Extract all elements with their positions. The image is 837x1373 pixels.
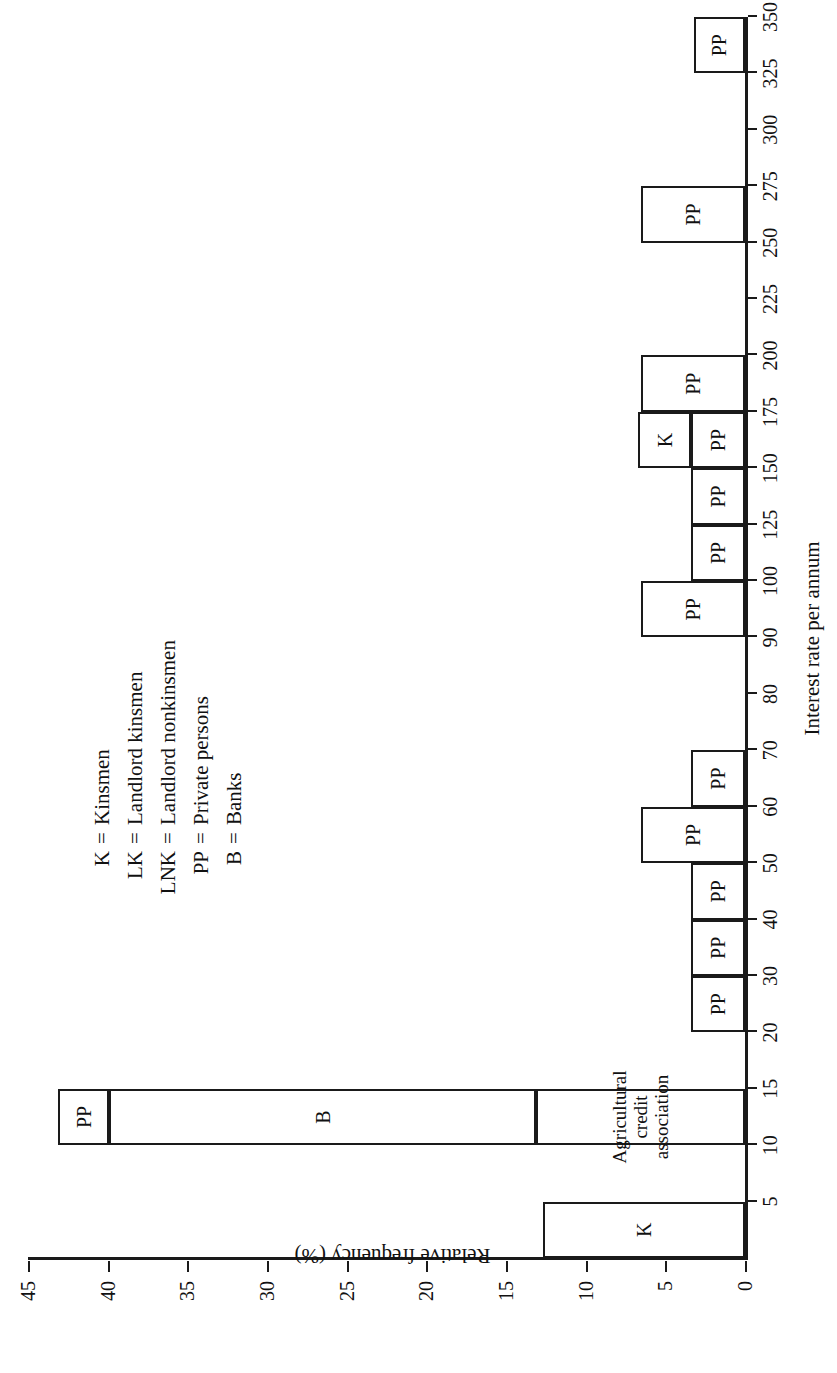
x-axis-title: Interest rate per annum [800,17,825,1260]
x-axis-tick [748,1143,757,1145]
histogram-bar-segment: B [109,1089,536,1145]
y-axis-tick-label: 35 [177,1281,197,1333]
histogram-bar-segment: PP [58,1089,109,1145]
histogram-bar: Agriculturalcredit associationBPP [58,1089,745,1145]
histogram-bar: PP [691,920,745,976]
x-axis-tick-label: 80 [760,671,780,717]
y-axis-tick-label: 30 [257,1281,277,1333]
histogram-bar: PP [691,863,745,919]
histogram-bar: PP [691,976,745,1032]
x-axis-tick-label: 250 [760,220,780,266]
x-axis-tick-label: 125 [760,502,780,548]
y-axis-tick-label: 10 [576,1281,596,1333]
y-axis-tick-label: 25 [337,1281,357,1333]
x-axis-tick-label: 300 [760,107,780,153]
x-axis-tick-label: 60 [760,784,780,830]
x-axis-tick [748,692,757,694]
legend-equals-sign: = [119,825,152,851]
x-axis-tick [748,297,757,299]
x-axis-tick-label: 350 [760,0,780,40]
histogram-bar-segment: PP [694,17,745,73]
bar-segment-label: PP [707,993,729,1015]
histogram-bar-segment: PP [641,355,745,411]
legend-key: PP [185,851,218,903]
x-axis-tick [748,184,757,186]
histogram-bar: PP [694,17,745,73]
y-axis-title: Relative frequency (%) [163,1243,623,1268]
histogram-bar-segment: PP [691,750,745,806]
legend-key: K [86,851,119,903]
histogram-bar: PP [691,468,745,524]
legend-key: B [218,851,251,903]
x-axis-tick [748,579,757,581]
x-axis-tick-label: 275 [760,163,780,209]
legend: K=KinsmenLK=Landlord kinsmenLNK=Landlord… [86,640,251,903]
legend-item: PP=Private persons [185,640,218,903]
y-axis-tick-label: 45 [18,1281,38,1333]
bar-segment-label: PP [707,485,729,507]
histogram-bar: PP [641,186,745,242]
x-axis-tick-label: 100 [760,558,780,604]
histogram-bar-segment: Agriculturalcredit association [536,1089,745,1145]
x-axis-tick [748,410,757,412]
y-axis-tick [28,1261,30,1272]
y-axis-tick-label: 0 [735,1281,755,1333]
x-axis-tick [748,748,757,750]
histogram-bar-segment: PP [691,976,745,1032]
x-axis-tick [748,636,757,638]
legend-key: LNK [152,851,185,903]
x-axis-tick [748,466,757,468]
legend-description: Private persons [185,696,218,825]
x-axis-tick-label: 325 [760,50,780,96]
legend-item: LNK=Landlord nonkinsmen [152,640,185,903]
legend-item: LK=Landlord kinsmen [119,640,152,903]
histogram-bar-segment: PP [641,807,745,863]
x-axis-tick [748,15,757,17]
histogram-bar-segment: PP [691,412,745,468]
histogram-bar: PPK [638,412,745,468]
y-axis-tick [665,1261,667,1272]
x-axis-tick [748,1200,757,1202]
y-axis-tick [108,1261,110,1272]
bar-segment-label: PP [707,767,729,789]
legend-equals-sign: = [86,825,119,851]
legend-equals-sign: = [185,825,218,851]
histogram-bar-segment: PP [691,920,745,976]
legend-item: B=Banks [218,640,251,903]
histogram-bar: PP [691,750,745,806]
histogram-bar: PP [691,525,745,581]
bar-segment-label: PP [682,373,704,395]
x-axis-tick [748,805,757,807]
rotated-figure-canvas: 5101520304050607080901001251501752002252… [0,0,837,1373]
histogram-bar-segment: PP [641,186,745,242]
x-axis-tick-label: 10 [760,1122,780,1168]
y-axis-tick-label: 5 [655,1281,675,1333]
bar-segment-label: PP [707,937,729,959]
histogram-bar: PP [641,355,745,411]
legend-key: LK [119,851,152,903]
x-axis-tick-label: 20 [760,1009,780,1055]
x-axis-tick-label: 30 [760,953,780,999]
bar-segment-label: PP [73,1106,95,1128]
y-axis-tick-label: 15 [496,1281,516,1333]
x-axis-tick-label: 200 [760,332,780,378]
legend-item: K=Kinsmen [86,640,119,903]
x-axis-tick-label: 90 [760,615,780,661]
x-axis-tick [748,128,757,130]
legend-description: Landlord nonkinsmen [152,640,185,825]
histogram-bar-segment: PP [641,581,745,637]
bar-segment-label: PP [707,429,729,451]
x-axis-tick [748,861,757,863]
x-axis-tick [748,918,757,920]
x-axis-tick-label: 70 [760,727,780,773]
legend-description: Landlord kinsmen [119,672,152,825]
x-axis-tick [748,1030,757,1032]
y-axis-tick-label: 20 [416,1281,436,1333]
x-axis-tick [748,974,757,976]
histogram-bar-segment: PP [691,863,745,919]
histogram-plot-area: 5101520304050607080901001251501752002252… [0,0,837,1373]
y-axis-tick [745,1261,747,1272]
legend-description: Kinsmen [86,749,119,825]
legend-description: Banks [218,773,251,826]
x-axis-tick [748,523,757,525]
